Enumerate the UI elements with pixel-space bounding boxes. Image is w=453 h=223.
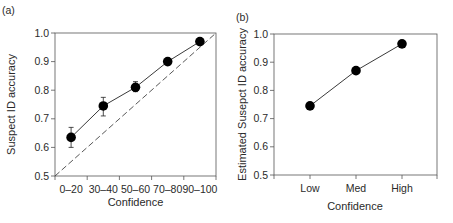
panel-b-label: (b) <box>236 11 249 23</box>
y-tick-label: 0.7 <box>253 112 268 124</box>
y-tick-label: 0.5 <box>253 169 268 181</box>
y-tick-label: 0.9 <box>34 55 49 67</box>
panel-b-x-axis: LowMedHigh <box>274 175 437 194</box>
x-tick-label: 30–40 <box>89 183 118 195</box>
panel-a-x-axis: 0–2030–4050–6070–8090–100 <box>55 176 218 195</box>
x-tick-label: 0–20 <box>59 183 83 195</box>
y-tick-label: 0.5 <box>34 170 49 182</box>
panel-a-y-label: Suspect ID accuracy <box>5 54 17 155</box>
panel-b: (b) 0.50.60.70.80.91.0 LowMedHigh Confid… <box>236 11 437 212</box>
data-point <box>195 37 205 47</box>
data-point <box>305 101 315 111</box>
x-tick-label: 70–80 <box>153 183 182 195</box>
x-tick-label: High <box>391 182 413 194</box>
y-tick-label: 0.6 <box>34 141 49 153</box>
y-tick-label: 0.6 <box>253 140 268 152</box>
y-tick-label: 1.0 <box>253 28 268 40</box>
panel-a-x-label: Confidence <box>108 196 164 208</box>
y-tick-label: 0.8 <box>34 84 49 96</box>
panel-a-y-axis: 0.50.60.70.80.91.0 <box>34 27 55 182</box>
x-tick-label: Med <box>346 182 367 194</box>
panel-b-x-label: Confidence <box>327 200 383 212</box>
panel-b-frame <box>274 34 437 175</box>
panel-a-series <box>66 37 204 148</box>
x-tick-label: Low <box>300 182 320 194</box>
x-tick-label: 90–100 <box>182 183 217 195</box>
data-point <box>131 83 141 93</box>
y-tick-label: 1.0 <box>34 27 49 39</box>
y-tick-label: 0.7 <box>34 112 49 124</box>
data-point <box>351 66 361 76</box>
data-point <box>163 57 173 67</box>
panel-a-calibration-line <box>55 33 216 176</box>
data-point <box>99 101 109 111</box>
figure: (a) 0.50.60.70.80.91.0 0–2030–4050–6070–… <box>0 0 453 223</box>
data-point <box>66 133 76 143</box>
panel-b-series <box>305 39 407 111</box>
y-tick-label: 0.8 <box>253 84 268 96</box>
data-point <box>397 39 407 49</box>
panel-b-y-axis: 0.50.60.70.80.91.0 <box>253 28 274 181</box>
panel-a-label: (a) <box>2 4 15 16</box>
y-tick-label: 0.9 <box>253 56 268 68</box>
panel-b-y-label: Estimated Susepct ID accuracy <box>236 28 248 181</box>
panel-a: (a) 0.50.60.70.80.91.0 0–2030–4050–6070–… <box>2 4 218 208</box>
x-tick-label: 50–60 <box>121 183 150 195</box>
